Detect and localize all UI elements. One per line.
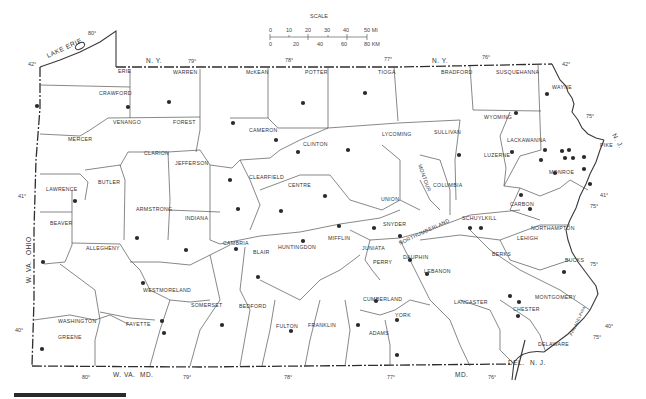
county-cumberland: CUMBERLAND [363,296,402,302]
scale-km-0: 0 [269,41,272,47]
county-bucks: BUCKS [565,257,585,263]
wva-bottom-label: W. VA. [113,371,135,378]
location-dot [41,260,45,264]
county-luzerne: LUZERNE [484,152,511,158]
county-butler: BUTLER [98,179,120,185]
county-venango: VENANGO [113,119,141,125]
location-dot [479,226,483,230]
lon-76-bottom: 76° [488,374,496,380]
location-dot [539,158,543,162]
county-potter: POTTER [305,69,328,75]
county-schuylkill: SCHUYLKILL [462,215,497,221]
location-dot [337,224,341,228]
scale-km-80: 80 KM [364,41,380,47]
county-mckean: McKEAN [246,69,269,75]
county-philadelphia: PHILADELPHIA [568,305,586,336]
county-perry: PERRY [373,259,393,265]
location-dot [141,281,145,285]
lake-erie-label: LAKE ERIE [45,36,83,59]
location-dot [126,105,130,109]
location-dot [516,314,520,318]
county-boundaries [34,64,590,366]
location-dot [184,248,188,252]
location-dot [256,275,260,279]
county-erie: ERIE [118,68,132,74]
county-mercer: MERCER [68,136,92,142]
lat-40-left: 40° [15,327,23,333]
county-pike: PIKE [600,142,613,148]
location-dot [560,149,564,153]
lon-79-bottom: 79° [183,374,191,380]
lon-80-top: 80° [88,30,96,36]
location-dot [468,226,472,230]
ny-right-label: N. Y. [432,57,448,64]
scale-km-60: 60 [341,41,347,47]
lon-78-bottom: 78° [284,374,292,380]
location-dot [398,234,402,238]
location-dot [582,167,586,171]
location-dot [296,150,300,154]
county-crawford: CRAWFORD [99,90,132,96]
md-right-label: MD. [455,371,468,378]
county-franklin: FRANKLIN [308,322,336,328]
lat-40-right: 40° [605,323,613,329]
location-dot [35,104,39,108]
location-dot [220,323,224,327]
lat-42-right: 42° [562,61,570,67]
county-wayne: WAYNE [552,84,572,90]
county-bedford: BEDFORD [239,303,266,309]
county-greene: GREENE [58,334,82,340]
county-allegheny: ALLEGHENY [86,245,120,251]
location-dot [563,156,567,160]
pennsylvania-county-map: SCALE 0 10 20 30 40 50 MI 0 20 40 60 80 … [0,0,646,399]
nj-bottom-label: N. J. [530,359,546,366]
location-dot [160,319,164,323]
lat-41-right: 41° [600,192,608,198]
county-juniata: JUNIATA [362,245,385,251]
county-susquehanna: SUSQUEHANNA [496,69,540,75]
lon-77-bottom: 77° [387,374,395,380]
county-huntingdon: HUNTINGDON [278,244,316,250]
county-cambria: CAMBRIA [223,240,249,246]
location-dot [395,353,399,357]
county-dauphin: DAUPHIN [403,254,428,260]
scale-km-40: 40 [317,41,323,47]
location-dot [514,111,518,115]
county-fulton: FULTON [276,323,298,329]
county-montour: MONTOUR [417,163,432,192]
lat-41-left: 41° [18,193,26,199]
county-cameron: CAMERON [249,127,278,133]
location-dot [553,171,557,175]
location-dot [301,239,305,243]
location-dot [301,101,305,105]
county-centre: CENTRE [288,182,311,188]
county-montgomery: MONTGOMERY [535,294,576,300]
county-york: YORK [395,312,411,318]
location-dot [135,236,139,240]
county-indiana: INDIANA [185,215,208,221]
location-dot [363,91,367,95]
scale-title: SCALE [310,13,328,19]
county-lehigh: LEHIGH [517,235,538,241]
location-dot [346,148,350,152]
county-delaware: DELAWARE [538,341,569,347]
county-blair: BLAIR [253,249,270,255]
county-warren: WARREN [173,69,198,75]
scale-mi-30: 30 [324,27,330,33]
lon-78-top: 78° [285,57,293,63]
location-dot [162,331,166,335]
scale-mi-20: 20 [305,27,311,33]
county-westmoreland: WESTMORELAND [143,287,191,293]
county-lycoming: LYCOMING [382,131,412,137]
lon-79-top: 79° [188,58,196,64]
lon-76-top: 76° [482,54,490,60]
scale-mi-0: 0 [269,27,272,33]
lon-77-top: 77° [384,56,392,62]
location-dot [425,272,429,276]
location-dot [567,148,571,152]
location-dot [274,138,278,142]
md-left-label: MD. [140,371,153,378]
location-dot [289,329,293,333]
county-monroe: MONROE [549,169,574,175]
county-lawrence: LAWRENCE [46,186,78,192]
